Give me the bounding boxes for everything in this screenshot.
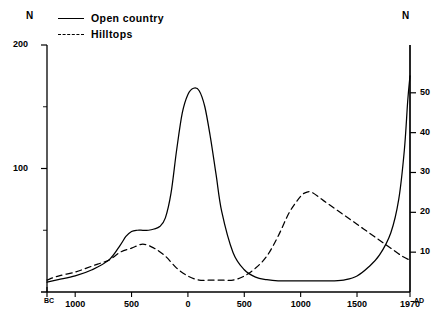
right-axis-tick-label: 50 [420, 87, 430, 97]
right-axis-tick-label: 20 [420, 206, 430, 216]
series-line-hilltops [47, 192, 410, 281]
x-axis-tick-label: 1000 [283, 299, 319, 309]
right-axis-tick-label: 30 [420, 166, 430, 176]
right-axis-tick-label: 10 [420, 246, 430, 256]
left-axis-tick-label: 200 [13, 39, 28, 49]
left-axis-tick-label: 100 [13, 163, 28, 173]
x-axis-tick-label: 500 [226, 299, 262, 309]
x-axis-tick-label: 1970 [392, 299, 428, 309]
chart-figure: N N Open country Hilltops BC AD 10020010… [0, 0, 436, 325]
right-axis-tick-label: 40 [420, 127, 430, 137]
series-line-open-country [47, 76, 410, 282]
x-axis-tick-label: 1000 [57, 299, 93, 309]
x-axis-tick-label: 0 [170, 299, 206, 309]
plot-area [0, 0, 436, 325]
x-axis-tick-label: 1500 [339, 299, 375, 309]
x-axis-tick-label: 500 [114, 299, 150, 309]
